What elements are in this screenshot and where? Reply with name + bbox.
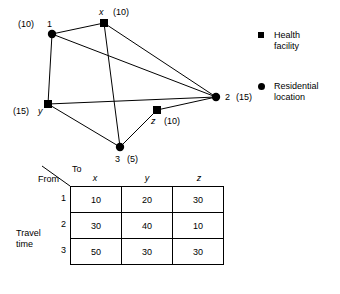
matrix-table: 10 20 30 30 40 10 50 30 30 xyxy=(70,186,224,265)
matrix-caption-line2: time xyxy=(16,239,33,249)
network-nodes xyxy=(44,19,220,151)
legend-label-line2: location xyxy=(274,92,305,102)
edge-y-3 xyxy=(48,104,120,147)
node-y-health xyxy=(44,100,52,108)
cell-1-y: 20 xyxy=(122,187,173,213)
matrix-row-header-1: 1 xyxy=(56,193,66,203)
table-row: 30 40 10 xyxy=(71,213,224,239)
network-edges xyxy=(48,23,216,147)
cell-3-x: 50 xyxy=(71,239,122,265)
node-3-residential xyxy=(116,143,124,151)
legend-item-health-facility: Health facility xyxy=(258,30,338,51)
node-1-residential xyxy=(48,30,56,38)
legend: Health facility Residential location xyxy=(258,30,338,132)
cell-3-z: 30 xyxy=(173,239,224,265)
edge-1-y xyxy=(48,34,52,104)
matrix-col-header-x: x xyxy=(70,173,120,183)
cell-2-x: 30 xyxy=(71,213,122,239)
legend-label-line1: Health xyxy=(274,30,300,40)
node-x-health xyxy=(100,19,108,27)
node-1-weight-label: (10) xyxy=(18,19,34,29)
table-row: 10 20 30 xyxy=(71,187,224,213)
node-z-name-label: z xyxy=(151,116,156,126)
node-3-name-label: 3 xyxy=(115,154,120,164)
edge-x-3 xyxy=(104,23,120,147)
node-x-name-label: x xyxy=(99,7,104,17)
cell-2-y: 40 xyxy=(122,213,173,239)
table-row: 50 30 30 xyxy=(71,239,224,265)
cell-3-y: 30 xyxy=(122,239,173,265)
node-3-weight-label: (5) xyxy=(127,154,138,164)
node-z-weight-label: (10) xyxy=(164,116,180,126)
legend-item-residential-location: Residential location xyxy=(258,81,338,102)
matrix-col-header-y: y xyxy=(122,173,172,183)
travel-time-matrix: To From x y z 1 2 3 10 20 30 30 40 10 50 xyxy=(70,186,224,265)
node-y-name-label: y xyxy=(38,106,43,116)
cell-1-z: 30 xyxy=(173,187,224,213)
circle-marker-icon xyxy=(258,81,268,91)
edge-1-2 xyxy=(52,34,216,97)
node-2-weight-label: (15) xyxy=(236,92,252,102)
node-1-name-label: 1 xyxy=(47,19,52,29)
figure-container: (10) 1 x (10) 2 (15) (15) y z (10) 3 (5)… xyxy=(0,0,340,294)
matrix-caption: Traveltime xyxy=(16,228,41,250)
legend-label-line1: Residential xyxy=(274,81,319,91)
matrix-row-header-2: 2 xyxy=(56,219,66,229)
matrix-row-header-3: 3 xyxy=(56,245,66,255)
edge-1-x xyxy=(52,23,104,34)
node-x-weight-label: (10) xyxy=(113,7,129,17)
legend-label-residential-location: Residential location xyxy=(274,81,319,102)
square-marker-icon xyxy=(258,30,268,40)
cell-2-z: 10 xyxy=(173,213,224,239)
cell-1-x: 10 xyxy=(71,187,122,213)
node-2-residential xyxy=(212,93,220,101)
matrix-caption-line1: Travel xyxy=(16,228,41,238)
legend-label-health-facility: Health facility xyxy=(274,30,300,51)
matrix-col-header-z: z xyxy=(174,173,224,183)
matrix-corner-from: From xyxy=(38,174,59,184)
node-z-health xyxy=(153,106,161,114)
node-y-weight-label: (15) xyxy=(13,106,29,116)
legend-label-line2: facility xyxy=(274,41,299,51)
node-2-name-label: 2 xyxy=(225,92,230,102)
